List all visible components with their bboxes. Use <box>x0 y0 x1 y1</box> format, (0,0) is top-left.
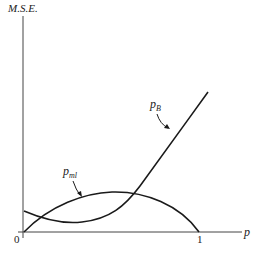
mse-chart: M.S.E. p 0 1 pB pml <box>0 0 264 263</box>
curve-p-b <box>24 92 208 223</box>
x-axis-label: p <box>243 225 250 239</box>
x-tick-1-label: 1 <box>197 233 203 245</box>
p-ml-label: pml <box>62 164 78 180</box>
y-axis-label: M.S.E. <box>7 2 38 14</box>
curve-p-ml <box>24 192 199 232</box>
origin-label: 0 <box>14 233 20 245</box>
p-b-label: pB <box>149 97 161 113</box>
